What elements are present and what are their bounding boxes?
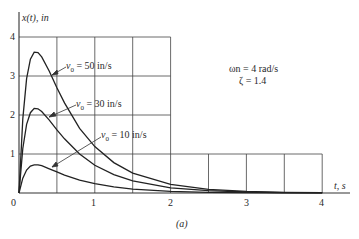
y-tick-1: 1	[10, 148, 15, 159]
series-label-50: v0 = 50 in/s	[66, 60, 112, 74]
x-tick-0: 0	[11, 197, 16, 208]
x-tick-3: 3	[244, 197, 249, 208]
series-label-10: v0 = 10 in/s	[101, 129, 147, 143]
x-tick-1: 1	[91, 197, 96, 208]
x-tick-4: 4	[319, 197, 324, 208]
grid	[19, 37, 322, 193]
y-tick-4: 4	[10, 31, 15, 42]
leader-10	[52, 137, 101, 167]
x-tick-2: 2	[168, 197, 173, 208]
y-axis-label: x(t), in	[22, 12, 49, 23]
x-axis-label: t, s	[334, 180, 346, 191]
axes	[19, 12, 350, 193]
annotation-omega: ωn = 4 rad/s	[229, 63, 278, 74]
y-axis-label-text: x(t), in	[22, 12, 49, 23]
arrow-head-icon	[49, 112, 56, 117]
figure-caption: (a)	[176, 218, 188, 229]
annotation-zeta: ζ = 1.4	[239, 75, 266, 86]
arrow-head-icon	[52, 70, 58, 75]
chart-canvas	[0, 0, 359, 239]
series-label-30: v0 = 30 in/s	[76, 98, 122, 112]
y-tick-3: 3	[10, 70, 15, 81]
y-tick-2: 2	[10, 109, 15, 120]
